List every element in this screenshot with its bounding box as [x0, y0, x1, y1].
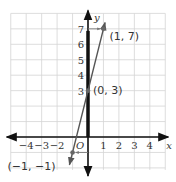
y-tick-label: 4	[78, 70, 84, 81]
data-point	[101, 27, 106, 32]
y-tick-label: 6	[78, 39, 84, 50]
y-tick-label: 5	[78, 55, 84, 66]
x-tick-label: −2	[50, 140, 65, 151]
data-point	[70, 150, 75, 155]
y-axis-label: y	[93, 12, 100, 23]
x-tick-label: −3	[34, 140, 49, 151]
point-label: (0, 3)	[93, 84, 123, 97]
x-tick-label: −4	[19, 140, 34, 151]
y-tick-label: 3	[78, 86, 84, 97]
coordinate-plane: (−1, −1)(0, 3)(1, 7)−4−3−2123434567Oxy	[0, 0, 176, 182]
x-tick-label: 3	[131, 140, 137, 151]
labels: (−1, −1)(0, 3)(1, 7)−4−3−2123434567Oxy	[8, 12, 173, 173]
data-point	[86, 88, 91, 93]
y-tick-label: 7	[78, 24, 84, 35]
x-tick-label: 2	[116, 140, 122, 151]
point-label: (−1, −1)	[8, 160, 56, 173]
point-label: (1, 7)	[109, 30, 139, 43]
x-axis-label: x	[166, 140, 172, 151]
x-tick-label: 1	[100, 140, 106, 151]
x-tick-label: 4	[147, 140, 153, 151]
origin-label: O	[76, 140, 84, 151]
